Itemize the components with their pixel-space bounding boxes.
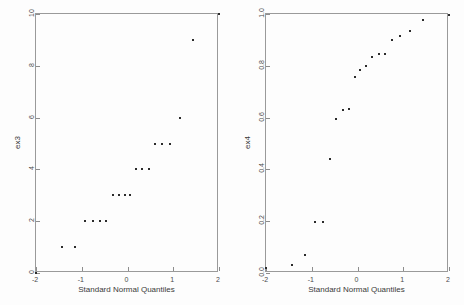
- data-point: [74, 246, 76, 248]
- data-point: [169, 143, 171, 145]
- y-tick-label-qq-plot-ex3: 6: [28, 115, 36, 119]
- y-tick-qq-plot-ex3: [36, 169, 40, 170]
- data-point: [314, 221, 316, 223]
- x-tick-label-qq-plot-ex4: -2: [262, 276, 268, 284]
- y-tick-qq-plot-ex4: [266, 66, 270, 67]
- x-tick-qq-plot-ex4: [403, 267, 404, 271]
- x-tick-label-qq-plot-ex3: -1: [78, 276, 84, 284]
- data-point: [99, 220, 101, 222]
- y-axis-title-ex3: ex3: [13, 127, 22, 157]
- plot-frame-ex4: [265, 13, 448, 272]
- x-tick-qq-plot-ex4: [449, 267, 450, 271]
- data-point: [342, 109, 344, 111]
- data-point: [448, 14, 450, 16]
- data-point: [329, 158, 331, 160]
- y-tick-qq-plot-ex4: [266, 169, 270, 170]
- plot-area-ex4: [266, 14, 447, 271]
- data-point: [118, 194, 120, 196]
- data-point: [304, 254, 306, 256]
- y-tick-label-qq-plot-ex3: 8: [28, 63, 36, 67]
- plot-area-ex3: [36, 14, 217, 271]
- y-tick-qq-plot-ex3: [36, 66, 40, 67]
- data-point: [348, 108, 350, 110]
- data-point: [92, 220, 94, 222]
- y-tick-label-qq-plot-ex3: 0: [28, 270, 36, 274]
- y-tick-label-qq-plot-ex4: 0.8: [258, 60, 266, 70]
- data-point: [192, 39, 194, 41]
- data-point: [359, 69, 361, 71]
- y-tick-qq-plot-ex4: [266, 14, 270, 15]
- x-tick-label-qq-plot-ex4: 0: [355, 276, 359, 284]
- data-point: [409, 30, 411, 32]
- y-tick-qq-plot-ex3: [36, 221, 40, 222]
- data-point: [84, 220, 86, 222]
- y-tick-qq-plot-ex3: [36, 14, 40, 15]
- data-point: [179, 117, 181, 119]
- x-tick-label-qq-plot-ex3: 1: [170, 276, 174, 284]
- y-tick-qq-plot-ex4: [266, 221, 270, 222]
- x-tick-label-qq-plot-ex4: 1: [400, 276, 404, 284]
- x-axis-title-ex3: Standard Normal Quantiles: [78, 285, 175, 294]
- data-point: [124, 194, 126, 196]
- x-tick-label-qq-plot-ex3: 0: [125, 276, 129, 284]
- plot-frame-ex3: [35, 13, 218, 272]
- data-point: [135, 168, 137, 170]
- data-point: [291, 264, 293, 266]
- data-point: [105, 220, 107, 222]
- y-axis-title-ex4: ex4: [243, 127, 252, 157]
- x-tick-qq-plot-ex3: [36, 267, 37, 271]
- figure-canvas: ex3 Standard Normal Quantiles 0246810-2-…: [0, 0, 464, 305]
- y-tick-label-qq-plot-ex3: 10: [28, 9, 36, 17]
- y-tick-qq-plot-ex4: [266, 273, 270, 274]
- data-point: [399, 35, 401, 37]
- data-point: [365, 65, 367, 67]
- data-point: [384, 53, 386, 55]
- x-tick-qq-plot-ex4: [312, 267, 313, 271]
- data-point: [378, 53, 380, 55]
- y-tick-label-qq-plot-ex4: 0.6: [258, 112, 266, 122]
- data-point: [141, 168, 143, 170]
- data-point: [148, 168, 150, 170]
- data-point: [371, 56, 373, 58]
- data-point: [218, 13, 220, 15]
- y-tick-label-qq-plot-ex4: 1.0: [258, 8, 266, 18]
- x-tick-qq-plot-ex3: [219, 267, 220, 271]
- x-tick-qq-plot-ex3: [128, 267, 129, 271]
- x-tick-qq-plot-ex3: [173, 267, 174, 271]
- x-tick-label-qq-plot-ex3: -2: [32, 276, 38, 284]
- data-point: [112, 194, 114, 196]
- data-point: [129, 194, 131, 196]
- y-tick-label-qq-plot-ex3: 2: [28, 218, 36, 222]
- chart-panel-ex3: ex3 Standard Normal Quantiles 0246810-2-…: [0, 0, 232, 305]
- data-point: [422, 19, 424, 21]
- data-point: [161, 143, 163, 145]
- data-point: [354, 76, 356, 78]
- data-point: [391, 39, 393, 41]
- x-tick-label-qq-plot-ex3: 2: [216, 276, 220, 284]
- x-tick-qq-plot-ex4: [358, 267, 359, 271]
- y-tick-qq-plot-ex3: [36, 118, 40, 119]
- data-point: [154, 143, 156, 145]
- y-tick-label-qq-plot-ex4: 0.2: [258, 215, 266, 225]
- data-point: [322, 221, 324, 223]
- y-tick-qq-plot-ex4: [266, 118, 270, 119]
- data-point: [335, 118, 337, 120]
- y-tick-label-qq-plot-ex3: 4: [28, 166, 36, 170]
- chart-panel-ex4: ex4 Standard Normal Quantiles 0.00.20.40…: [232, 0, 464, 305]
- x-axis-title-ex4: Standard Normal Quantiles: [308, 285, 405, 294]
- x-tick-qq-plot-ex3: [82, 267, 83, 271]
- x-tick-label-qq-plot-ex4: 2: [446, 276, 450, 284]
- x-tick-label-qq-plot-ex4: -1: [308, 276, 314, 284]
- y-tick-label-qq-plot-ex4: 0.4: [258, 164, 266, 174]
- data-point: [61, 246, 63, 248]
